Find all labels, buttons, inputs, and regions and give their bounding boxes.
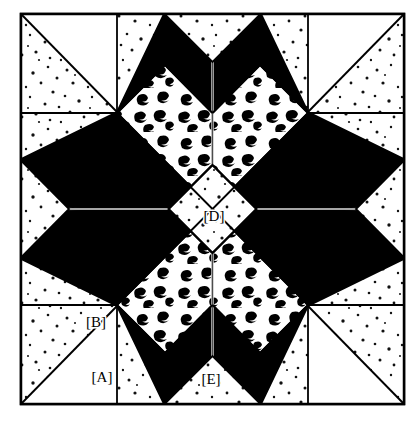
quilt-block-canvas: [A] [B] [D] [E] — [0, 0, 412, 426]
patch-label-e: [E] — [201, 371, 220, 387]
patch-label-d: [D] — [204, 208, 225, 224]
quilt-block-diagram: [A] [B] [D] [E] — [0, 0, 412, 426]
patch-label-a: [A] — [92, 369, 113, 385]
patch-label-b: [B] — [86, 314, 106, 330]
